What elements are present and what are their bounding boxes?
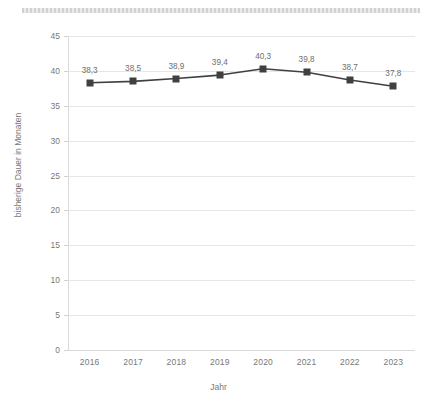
y-axis-tick-label: 20 bbox=[36, 206, 60, 215]
y-axis-tick-label: 5 bbox=[36, 311, 60, 320]
series-line bbox=[68, 36, 415, 350]
y-axis-tick-label: 25 bbox=[36, 172, 60, 181]
data-point-marker bbox=[260, 65, 267, 72]
data-point-label: 38,5 bbox=[113, 65, 153, 73]
x-axis-tick-label: 2020 bbox=[241, 358, 285, 367]
data-point-label: 39,4 bbox=[200, 59, 240, 67]
y-axis-tick-label: 40 bbox=[36, 67, 60, 76]
data-point-marker bbox=[86, 79, 93, 86]
line-chart: bisherige Dauer in Monaten 0510152025303… bbox=[0, 0, 437, 414]
data-point-marker bbox=[346, 76, 353, 83]
gridline bbox=[68, 350, 415, 351]
y-axis-tick-label: 35 bbox=[36, 102, 60, 111]
data-point-label: 38,7 bbox=[330, 64, 370, 72]
data-point-label: 38,3 bbox=[70, 67, 110, 75]
y-axis-tick-label: 0 bbox=[36, 346, 60, 355]
data-point-label: 39,8 bbox=[287, 56, 327, 64]
y-axis-tick-label: 15 bbox=[36, 241, 60, 250]
x-axis-tick-label: 2022 bbox=[328, 358, 372, 367]
y-axis-tick-label: 10 bbox=[36, 276, 60, 285]
y-axis-title: bisherige Dauer in Monaten bbox=[13, 85, 23, 245]
x-axis-tick-label: 2019 bbox=[198, 358, 242, 367]
x-axis-title: Jahr bbox=[0, 382, 437, 392]
x-axis-tick-label: 2018 bbox=[154, 358, 198, 367]
data-point-label: 37,8 bbox=[373, 70, 413, 78]
x-axis-tick-label: 2017 bbox=[111, 358, 155, 367]
x-axis-tick-label: 2021 bbox=[285, 358, 329, 367]
x-axis-tick-label: 2023 bbox=[371, 358, 415, 367]
y-axis-tick-label: 30 bbox=[36, 137, 60, 146]
data-point-label: 38,9 bbox=[156, 63, 196, 71]
x-axis-tick-label: 2016 bbox=[68, 358, 112, 367]
data-point-marker bbox=[390, 83, 397, 90]
data-point-label: 40,3 bbox=[243, 53, 283, 61]
data-point-marker bbox=[216, 72, 223, 79]
y-axis-tick-label: 45 bbox=[36, 32, 60, 41]
data-point-marker bbox=[173, 75, 180, 82]
data-point-marker bbox=[303, 69, 310, 76]
data-point-marker bbox=[130, 78, 137, 85]
plot-area: 38,338,538,939,440,339,838,737,8 bbox=[68, 36, 415, 350]
